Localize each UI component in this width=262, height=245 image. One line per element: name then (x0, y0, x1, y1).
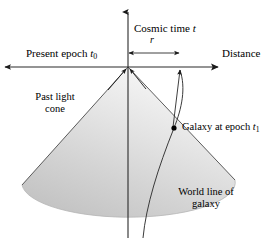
galaxy-epoch-label: Galaxy at epoch t1 (182, 121, 260, 134)
world-line-line1: World line of (178, 186, 234, 197)
cosmic-time-axis-label: Cosmic time t (134, 22, 196, 34)
world-line-label: World line ofgalaxy (168, 186, 244, 210)
present-epoch-text: Present epoch (26, 47, 87, 59)
distance-axis-label: Distance (222, 47, 260, 59)
present-epoch-subscript: 0 (93, 52, 97, 61)
cosmic-light-cone-diagram: Cosmic time t Present epoch t0 Distance … (0, 0, 262, 245)
comoving-distance-label: r (150, 34, 154, 45)
present-epoch-label: Present epoch t0 (26, 47, 97, 62)
past-light-cone-label: Past lightcone (22, 91, 88, 115)
past-light-cone-line2: cone (45, 103, 65, 114)
galaxy-epoch-text: Galaxy at epoch (182, 121, 250, 132)
galaxy-epoch-subscript: 1 (256, 125, 260, 134)
world-line-line2: galaxy (192, 198, 220, 209)
cosmic-time-symbol: t (193, 22, 196, 34)
galaxy-marker-dot (171, 125, 176, 130)
cosmic-time-text: Cosmic time (134, 22, 190, 34)
past-light-cone-line1: Past light (35, 91, 74, 102)
